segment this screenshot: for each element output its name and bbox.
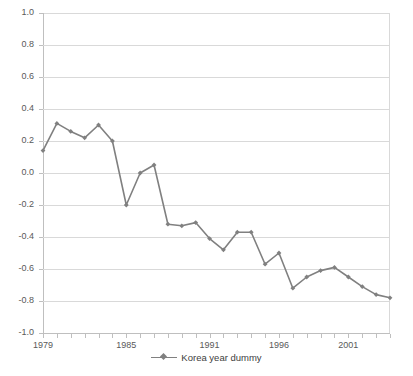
x-axis-tick [265,334,266,338]
data-point-marker [221,247,226,252]
y-axis-tick [39,269,43,270]
y-axis-tick [39,237,43,238]
x-axis-tick [196,334,197,338]
y-axis-tick-label: 0.6 [0,72,34,81]
data-point-marker [277,251,282,256]
data-point-marker [304,275,309,280]
x-axis-line [43,333,390,334]
x-axis-tick-label: 2001 [328,340,368,350]
legend: Korea year dummy [0,352,413,363]
x-axis-tick-label: 1979 [23,340,63,350]
data-point-marker [249,230,254,235]
y-axis-tick [39,205,43,206]
y-axis-tick [39,109,43,110]
x-axis-tick [126,334,127,338]
y-axis-tick-label: -0.8 [0,296,34,305]
diamond-line-marker-icon [151,353,177,363]
gridline [43,77,390,78]
x-axis-tick [376,334,377,338]
line-chart: 1.00.80.60.40.20.0-0.2-0.4-0.6-0.8-1.0 1… [0,0,413,376]
y-axis-tick [39,13,43,14]
gridline [43,141,390,142]
y-axis-tick [39,141,43,142]
gridline [43,45,390,46]
legend-item-label: Korea year dummy [181,352,261,363]
y-axis-tick-label: 0.2 [0,136,34,145]
data-point-marker [68,129,73,134]
x-axis-tick-label: 1985 [106,340,146,350]
series-layer [0,0,413,376]
x-axis-tick [182,334,183,338]
x-axis-tick [154,334,155,338]
gridline [43,237,390,238]
y-axis-tick [39,173,43,174]
y-axis-tick-label: 1.0 [0,8,34,17]
x-axis-tick [237,334,238,338]
plot-border-top [43,13,390,14]
x-axis-tick [140,334,141,338]
data-point-marker [152,163,157,168]
gridline [43,205,390,206]
data-point-marker [54,121,59,126]
series-line [43,123,390,297]
data-point-marker [166,222,171,227]
x-axis-tick [334,334,335,338]
y-axis-tick-label: 0.8 [0,40,34,49]
data-point-marker [290,286,295,291]
x-axis-tick [251,334,252,338]
x-axis-tick [321,334,322,338]
x-axis-tick [112,334,113,338]
data-point-marker [82,135,87,140]
y-axis-tick-label: -1.0 [0,328,34,337]
x-axis-tick [85,334,86,338]
data-point-marker [96,123,101,128]
y-axis-tick-label: 0.4 [0,104,34,113]
y-axis-tick-label: 0.0 [0,168,34,177]
data-point-marker [346,275,351,280]
x-axis-tick [293,334,294,338]
data-point-marker [193,220,198,225]
y-axis-tick [39,45,43,46]
x-axis-tick [99,334,100,338]
x-axis-tick [279,334,280,338]
y-axis-tick-label: -0.6 [0,264,34,273]
data-point-marker [235,230,240,235]
x-axis-tick [57,334,58,338]
x-axis-tick [223,334,224,338]
gridline [43,269,390,270]
x-axis-tick-label: 1991 [190,340,230,350]
y-axis-tick [39,77,43,78]
x-axis-tick [390,334,391,338]
x-axis-tick [71,334,72,338]
y-axis-tick-label: -0.2 [0,200,34,209]
x-axis-tick [348,334,349,338]
y-axis-tick-label: -0.4 [0,232,34,241]
x-axis-tick [168,334,169,338]
gridline [43,173,390,174]
y-axis-tick [39,301,43,302]
x-axis-tick [43,334,44,338]
data-point-marker [374,292,379,297]
x-axis-tick [362,334,363,338]
x-axis-tick-label: 1996 [259,340,299,350]
data-point-marker [360,284,365,289]
data-point-marker [179,223,184,228]
x-axis-tick [307,334,308,338]
data-point-marker [263,262,268,267]
x-axis-tick [210,334,211,338]
gridline [43,301,390,302]
gridline [43,109,390,110]
